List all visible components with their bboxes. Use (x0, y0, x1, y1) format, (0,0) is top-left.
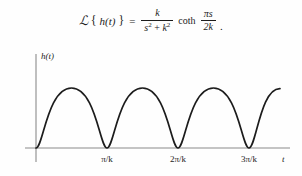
formula-close-brace: } (118, 13, 124, 28)
laplace-operator-symbol: ℒ (79, 13, 88, 28)
x-tick-label-2pi-over-k: 2π/k (170, 154, 187, 164)
denominator-s-exponent: 2 (148, 21, 152, 29)
fraction-denominator: s2 + k2 (141, 20, 173, 34)
denominator-k-exponent: 2 (167, 21, 171, 29)
main-fraction: k s2 + k2 (141, 8, 173, 33)
y-axis-label: h(t) (41, 51, 54, 61)
formula-function-arg: h(t) (99, 15, 115, 27)
formula-terminator: . (220, 20, 223, 33)
coth-argument-fraction: πs 2k (201, 9, 216, 33)
formula-equals-sign: = (127, 15, 137, 27)
denominator-plus: + (154, 22, 160, 33)
formula-row: ℒ{h(t)} = k s2 + k2 coth πs 2k . (79, 8, 223, 33)
figure-container: ℒ{h(t)} = k s2 + k2 coth πs 2k . (0, 0, 302, 176)
laplace-transform-formula: ℒ{h(t)} = k s2 + k2 coth πs 2k . (0, 8, 302, 33)
rectified-sine-wave-plot: h(t) t π/k 2π/k 3π/k (0, 44, 302, 176)
coth-operator: coth (177, 15, 196, 26)
coth-arg-numerator: πs (201, 9, 216, 21)
x-tick-label-pi-over-k: π/k (101, 154, 113, 164)
x-tick-label-3pi-over-k: 3π/k (241, 154, 258, 164)
formula-open-brace: { (91, 13, 97, 28)
fraction-numerator: k (152, 8, 162, 20)
rectified-sine-curve (36, 88, 280, 148)
coth-arg-denominator: 2k (201, 20, 216, 33)
x-axis-label: t (282, 154, 285, 164)
